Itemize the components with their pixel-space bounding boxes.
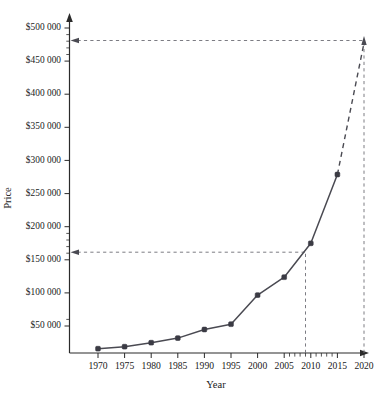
y-tick-label: $500 000 <box>26 22 61 32</box>
data-point-marker <box>282 275 287 280</box>
axes-group <box>66 13 369 356</box>
guide-2020-arrowhead <box>71 38 80 43</box>
y-axis-title: Price <box>2 187 13 209</box>
y-tick-label: $250 000 <box>26 188 61 198</box>
price-line-projection <box>337 43 364 175</box>
data-point-marker <box>229 322 234 327</box>
y-tick-label: $300 000 <box>26 155 61 165</box>
x-tick-label: 1970 <box>88 360 107 371</box>
data-point-marker <box>149 340 154 345</box>
x-tick-label: 2020 <box>354 360 373 371</box>
x-tick-label: 1990 <box>195 360 214 371</box>
y-axis-tick-labels: $50 000 $100 000 $150 000 $200 000 $250 … <box>26 22 61 330</box>
guide-2008-group <box>71 250 306 354</box>
x-tick-label: 2010 <box>301 360 320 371</box>
data-point-marker <box>308 241 313 246</box>
y-tick-label: $450 000 <box>26 55 61 65</box>
chart-canvas: $50 000 $100 000 $150 000 $200 000 $250 … <box>0 0 374 398</box>
x-tick-label: 2005 <box>275 360 294 371</box>
y-tick-label: $50 000 <box>31 320 62 330</box>
x-tick-label: 1985 <box>168 360 187 371</box>
data-point-marker <box>96 346 101 351</box>
guide-2020-group <box>71 38 365 353</box>
guide-2008-arrowhead <box>71 250 80 255</box>
x-tick-label: 1995 <box>221 360 240 371</box>
x-tick-label: 1980 <box>142 360 161 371</box>
x-tick-label: 2015 <box>328 360 347 371</box>
x-tick-label: 2000 <box>248 360 267 371</box>
data-point-marker <box>255 293 260 298</box>
y-tick-label: $400 000 <box>26 88 61 98</box>
x-axis-ticks <box>98 353 364 358</box>
x-tick-label: 1975 <box>115 360 134 371</box>
price-series-group <box>96 36 367 351</box>
x-axis-tick-labels: 1970 1975 1980 1985 1990 1995 2000 2005 … <box>88 360 373 371</box>
x-axis-title: Year <box>206 379 226 390</box>
y-tick-label: $150 000 <box>26 254 61 264</box>
y-tick-label: $100 000 <box>26 287 61 297</box>
data-point-marker <box>175 336 180 341</box>
y-axis-ticks <box>65 28 70 326</box>
data-point-marker <box>122 344 127 349</box>
data-point-marker <box>335 172 340 177</box>
data-point-marker <box>202 327 207 332</box>
y-tick-label: $350 000 <box>26 121 61 131</box>
y-tick-label: $200 000 <box>26 221 61 231</box>
price-line-observed <box>98 175 337 349</box>
price-vs-year-chart: $50 000 $100 000 $150 000 $200 000 $250 … <box>0 0 374 398</box>
y-axis-arrowhead <box>66 13 73 22</box>
